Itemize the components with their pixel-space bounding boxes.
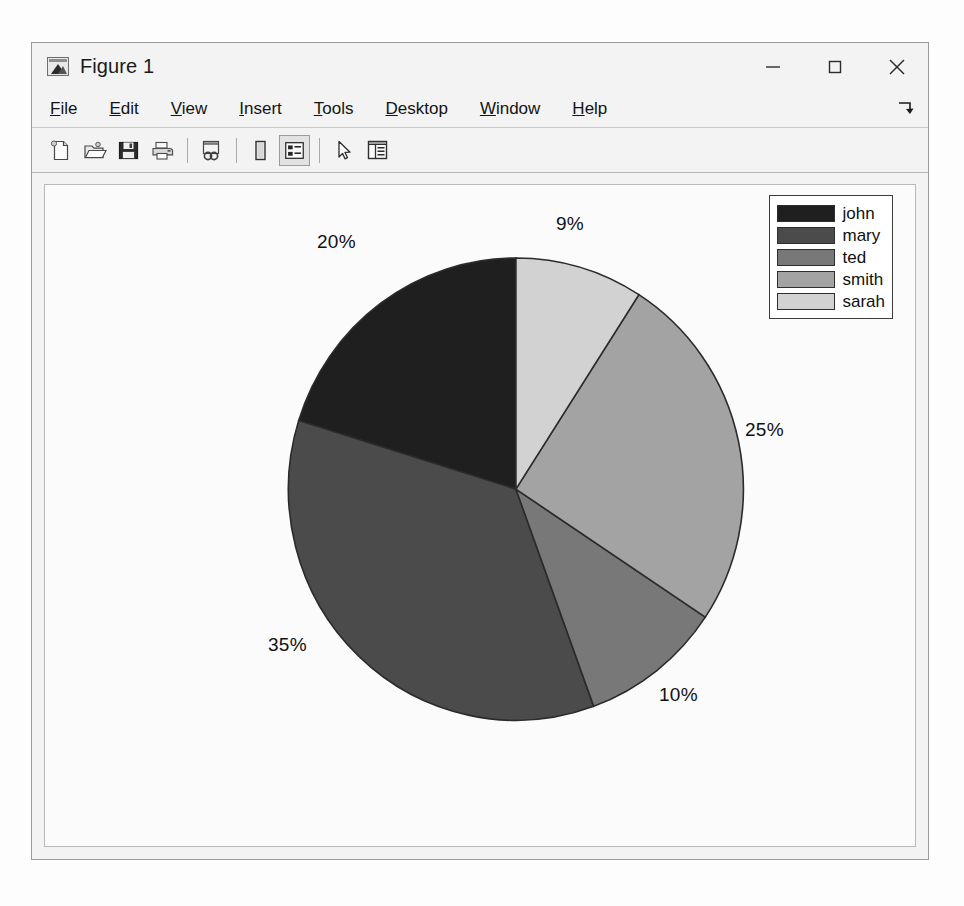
menu-item-file[interactable]: File	[49, 97, 78, 121]
window-controls	[742, 43, 928, 90]
open-folder-icon	[82, 138, 107, 163]
legend-item-mary[interactable]: mary	[777, 224, 885, 246]
insert-colorbar-button[interactable]	[245, 135, 276, 166]
pie-slices	[288, 258, 743, 720]
new-document-icon	[48, 138, 73, 163]
minimize-icon	[762, 56, 784, 78]
maximize-icon	[824, 56, 846, 78]
menu-item-insert[interactable]: Insert	[238, 97, 283, 121]
close-button[interactable]	[866, 43, 928, 90]
legend-item-ted[interactable]: ted	[777, 246, 885, 268]
plot-browser-icon	[365, 138, 390, 163]
legend-label-smith: smith	[842, 271, 883, 288]
colorbar-icon	[248, 138, 273, 163]
legend-swatch-smith	[777, 271, 835, 288]
print-figure-button[interactable]	[147, 135, 178, 166]
legend-label-john: john	[842, 205, 874, 222]
toolbar-separator-1	[187, 138, 188, 163]
screenshot-root: Figure 1	[0, 0, 964, 906]
matlab-figure-icon	[47, 57, 69, 76]
toolbar-separator-3	[319, 138, 320, 163]
pct-label-ted: 10%	[659, 684, 698, 706]
icon-wing-light	[58, 66, 67, 74]
menu-item-tools[interactable]: Tools	[313, 97, 355, 121]
link-plot-icon	[199, 138, 224, 163]
legend-swatch-john	[777, 205, 835, 222]
pct-label-john: 20%	[317, 231, 356, 253]
close-icon	[885, 55, 909, 79]
menu-item-help[interactable]: Help	[571, 97, 608, 121]
legend[interactable]: john mary ted smith sarah	[769, 195, 893, 319]
pct-label-mary: 35%	[268, 634, 307, 656]
menu-item-view[interactable]: View	[170, 97, 209, 121]
legend-label-mary: mary	[842, 227, 880, 244]
new-figure-button[interactable]	[45, 135, 76, 166]
printer-icon	[150, 138, 175, 163]
expand-arrow-icon[interactable]	[897, 99, 915, 117]
legend-swatch-mary	[777, 227, 835, 244]
minimize-button[interactable]	[742, 43, 804, 90]
save-figure-button[interactable]	[113, 135, 144, 166]
legend-item-john[interactable]: john	[777, 202, 885, 224]
legend-item-smith[interactable]: smith	[777, 268, 885, 290]
pct-label-sarah: 9%	[556, 213, 584, 235]
save-disk-icon	[116, 138, 141, 163]
legend-icon	[283, 139, 306, 162]
toolbar-separator-2	[236, 138, 237, 163]
icon-title-strip	[49, 59, 67, 62]
menu-item-window[interactable]: Window	[479, 97, 541, 121]
menu-bar: File Edit View Insert Tools Desktop Wind…	[32, 90, 928, 128]
legend-label-sarah: sarah	[842, 293, 885, 310]
insert-legend-button[interactable]	[279, 135, 310, 166]
legend-swatch-sarah	[777, 293, 835, 310]
pointer-arrow-icon	[331, 138, 356, 163]
link-plot-button[interactable]	[196, 135, 227, 166]
window-title: Figure 1	[80, 55, 154, 78]
legend-swatch-ted	[777, 249, 835, 266]
legend-item-sarah[interactable]: sarah	[777, 290, 885, 312]
maximize-button[interactable]	[804, 43, 866, 90]
open-file-button[interactable]	[79, 135, 110, 166]
matlab-figure-window: Figure 1	[31, 42, 929, 860]
pct-label-smith: 25%	[745, 419, 784, 441]
edit-plot-button[interactable]	[328, 135, 359, 166]
plot-browser-button[interactable]	[362, 135, 393, 166]
figure-canvas[interactable]: 9% 25% 10% 35% 20% john mary ted	[44, 184, 916, 847]
legend-label-ted: ted	[842, 249, 866, 266]
title-bar: Figure 1	[32, 43, 928, 90]
menu-item-desktop[interactable]: Desktop	[385, 97, 449, 121]
menu-item-edit[interactable]: Edit	[108, 97, 139, 121]
toolbar	[32, 128, 928, 173]
